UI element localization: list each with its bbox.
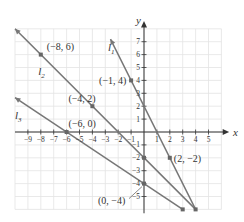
point-label: (2, −2) [174,153,201,165]
y-tick-label: 1 [136,115,140,124]
labels: xy−9−8−7−6−5−4−3−2−112345−5−4−3−2−112345… [15,14,238,207]
x-tick-label: −2 [114,135,122,144]
point-label: (−4, 2) [68,93,95,105]
y-tick-label: 4 [136,76,140,85]
endpoint-marker [194,207,198,211]
x-tick-label: −7 [50,135,58,144]
endpoint-marker [181,207,185,211]
point-label: (−6, 0) [69,118,96,130]
x-tick-label: 4 [194,135,198,144]
x-tick-label: −3 [101,135,109,144]
y-tick-label: 3 [136,89,140,98]
point-label: (0, −4) [98,195,125,207]
point-marker [168,156,172,160]
y-tick-label: 7 [136,37,140,46]
y-tick-label: −4 [132,179,140,188]
x-tick-label: −8 [37,135,45,144]
x-tick-label: 5 [207,135,211,144]
x-tick-label: 1 [155,135,159,144]
y-tick-label: −5 [132,192,140,201]
x-axis-arrow-icon [223,129,229,135]
y-tick-label: 5 [136,63,140,72]
point-marker [90,104,94,108]
point-marker [129,78,133,82]
x-tick-label: −9 [24,135,32,144]
x-axis-label: x [232,126,238,138]
point-marker [39,53,43,57]
x-tick-label: 2 [168,135,172,144]
x-tick-label: 3 [181,135,185,144]
x-tick-label: −6 [63,135,71,144]
line-label-l3: l3 [15,109,22,124]
x-tick-label: −5 [76,135,84,144]
y-tick-label: 6 [136,50,140,59]
point-label: (−8, 6) [47,41,74,53]
point-label: (−1, 4) [99,75,126,87]
coordinate-plane: xy−9−8−7−6−5−4−3−2−112345−5−4−3−2−112345… [0,0,244,222]
point-marker [142,182,146,186]
y-tick-label: −2 [132,153,140,162]
y-axis-arrow-icon [141,21,147,27]
lines [15,29,198,212]
point-marker [142,156,146,160]
x-tick-label: −4 [88,135,96,144]
y-axis-label: y [135,14,141,26]
point-marker [65,130,69,134]
line-l3 [15,98,183,210]
y-tick-label: 2 [136,102,140,111]
y-tick-label: −3 [132,166,140,175]
y-tick-label: −1 [132,140,140,149]
